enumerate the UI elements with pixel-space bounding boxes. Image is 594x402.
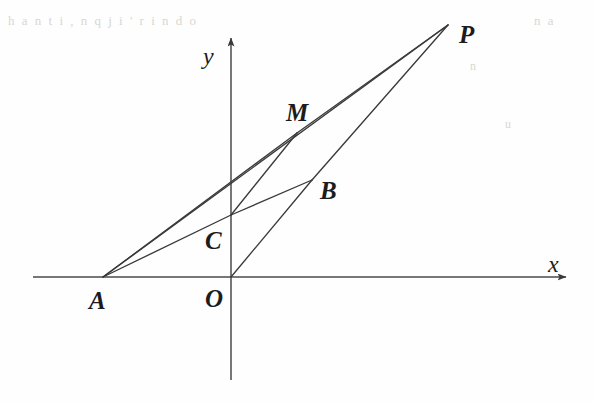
segment-CB (231, 180, 312, 215)
x-axis-label: x (548, 252, 559, 276)
segment-MP (297, 25, 448, 133)
ghost-text-3: u (505, 118, 513, 130)
ghost-text-2: n (470, 60, 478, 72)
point-label-o: O (205, 286, 223, 311)
axes-group (33, 38, 566, 380)
point-label-c: C (205, 228, 222, 253)
ghost-text-0: h a n t i , n q j i ' r i n d o (8, 14, 198, 27)
point-label-a: A (89, 288, 106, 313)
segment-BP (312, 25, 448, 180)
segments-group (103, 25, 448, 277)
y-axis-label: y (203, 44, 214, 68)
segment-OB (231, 180, 312, 277)
point-label-b: B (320, 178, 337, 203)
geometry-figure: x y AOCBMP h a n t i , n q j i ' r i n d… (0, 0, 594, 402)
ghost-text-1: n a (534, 14, 556, 27)
point-label-m: M (286, 100, 308, 125)
segment-AM (103, 133, 297, 277)
diagram-canvas (0, 0, 594, 402)
point-label-p: P (459, 22, 474, 47)
